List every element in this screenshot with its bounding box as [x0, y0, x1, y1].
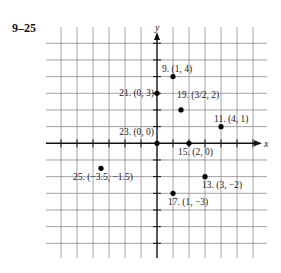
point-marker-icon — [154, 141, 159, 146]
data-point: 21. (0, 3) — [119, 88, 159, 99]
point-marker-icon — [98, 166, 103, 171]
point-marker-icon — [218, 124, 223, 129]
data-point: 25. (−3.5, −1.5) — [73, 166, 133, 184]
y-axis-label: y — [154, 22, 160, 33]
data-point: 19. (3/2, 2) — [177, 90, 219, 113]
point-label: 19. (3/2, 2) — [177, 90, 219, 101]
point-marker-icon — [178, 107, 183, 112]
point-marker-icon — [202, 174, 207, 179]
x-axis-arrow-icon — [254, 140, 262, 146]
point-label: 9. (1, 4) — [162, 64, 192, 75]
point-label: 25. (−3.5, −1.5) — [73, 172, 133, 183]
point-marker-icon — [170, 74, 175, 79]
axes: xy — [46, 22, 269, 258]
y-axis-arrow-icon — [154, 32, 160, 40]
point-marker-icon — [154, 91, 159, 96]
coordinate-plane: xy 9. (1, 4)11. (4, 1)13. (3, −2)15. (2,… — [0, 0, 281, 273]
point-label: 15. (2, 0) — [178, 147, 213, 158]
point-label: 23. (0, 0) — [119, 127, 154, 138]
x-axis-label: x — [263, 138, 269, 149]
plotted-points: 9. (1, 4)11. (4, 1)13. (3, −2)15. (2, 0)… — [73, 64, 248, 209]
point-marker-icon — [170, 191, 175, 196]
point-label: 13. (3, −2) — [202, 180, 242, 191]
point-label: 17. (1, −3) — [168, 197, 208, 208]
point-label: 11. (4, 1) — [214, 114, 248, 125]
point-marker-icon — [186, 141, 191, 146]
point-label: 21. (0, 3) — [119, 88, 154, 99]
